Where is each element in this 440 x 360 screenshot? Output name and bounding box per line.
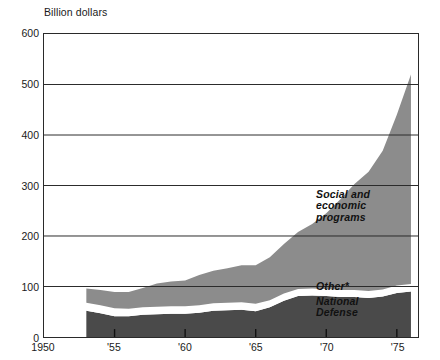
x-axis-tick-label: '70 [320,341,334,353]
x-axis-tick-label: '60 [178,341,192,353]
plot-area [43,33,419,338]
area-chart-svg [44,34,418,337]
band-label-social-and-economic-programs: Social and economic programs [316,189,370,223]
y-axis-tick-label: 600 [21,27,39,39]
x-axis-tick-label: '65 [249,341,263,353]
y-axis-title: Billion dollars [44,6,107,18]
x-axis-tick-labels: 1950'55'60'65'70'75 [43,341,419,359]
x-axis-tick-label: '55 [107,341,121,353]
band-label-other: Other* [316,281,349,292]
y-axis-tick-label: 300 [21,180,39,192]
y-axis-tick-label: 100 [21,281,39,293]
y-axis-tick-label: 200 [21,230,39,242]
x-axis-tick-label: '75 [391,341,405,353]
chart-container: Billion dollars 6005004003002001000 1950… [0,0,440,360]
y-axis-tick-label: 500 [21,78,39,90]
band-label-national-defense: National Defense [316,296,359,319]
y-axis-tick-labels: 6005004003002001000 [0,33,39,338]
y-axis-tick-label: 400 [21,129,39,141]
x-axis-tick-label: 1950 [31,341,54,353]
